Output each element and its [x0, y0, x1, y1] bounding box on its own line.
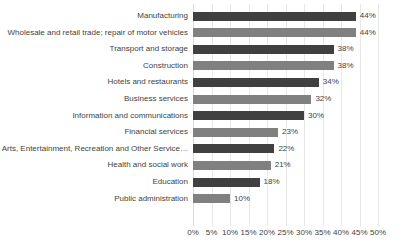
bar [193, 45, 334, 54]
bar-value-label: 44% [356, 25, 376, 42]
bar [193, 95, 311, 104]
bar [193, 144, 274, 153]
bar-track: 22% [193, 141, 418, 158]
bar-value-label: 18% [260, 174, 280, 191]
x-axis-tick-label: 50% [370, 226, 386, 242]
category-label: Information and communications [0, 108, 188, 125]
x-axis-tick-label: 15% [240, 226, 256, 242]
category-label: Hotels and restaurants [0, 74, 188, 91]
bar-track: 10% [193, 191, 418, 208]
bar-chart: Manufacturing44%Wholesale and retail tra… [0, 0, 418, 249]
bar [193, 12, 356, 21]
bar [193, 194, 230, 203]
bar-value-label: 38% [334, 58, 354, 75]
bar-value-label: 32% [311, 91, 331, 108]
bar [193, 61, 334, 70]
category-label: Education [0, 174, 188, 191]
bar-value-label: 22% [274, 141, 294, 158]
category-label: Arts, Entertainment, Recreation and Othe… [0, 141, 188, 158]
bar-track: 34% [193, 74, 418, 91]
category-label: Manufacturing [0, 8, 188, 25]
bar [193, 128, 278, 137]
chart-row: Education18% [0, 174, 418, 191]
x-axis-tick-label: 10% [222, 226, 238, 242]
x-axis-tick-label: 20% [259, 226, 275, 242]
chart-row: Health and social work21% [0, 157, 418, 174]
bar [193, 78, 319, 87]
x-axis-tick-label: 5% [206, 226, 218, 242]
chart-row: Wholesale and retail trade; repair of mo… [0, 25, 418, 42]
bar-value-label: 44% [356, 8, 376, 25]
category-label: Construction [0, 58, 188, 75]
bar-track: 44% [193, 8, 418, 25]
x-axis-tick-label: 0% [187, 226, 199, 242]
bar-track: 21% [193, 157, 418, 174]
x-axis: 0%5%10%15%20%25%30%35%40%45%50% [193, 226, 378, 242]
bar [193, 161, 271, 170]
bar-value-label: 34% [319, 74, 339, 91]
category-label: Wholesale and retail trade; repair of mo… [0, 25, 188, 42]
chart-row: Transport and storage38% [0, 41, 418, 58]
x-axis-tick-label: 30% [296, 226, 312, 242]
chart-row: Financial services23% [0, 124, 418, 141]
bar-track: 44% [193, 25, 418, 42]
x-axis-tick-label: 45% [351, 226, 367, 242]
category-label: Transport and storage [0, 41, 188, 58]
chart-row: Construction38% [0, 58, 418, 75]
x-axis-tick-label: 35% [314, 226, 330, 242]
bar-track: 38% [193, 58, 418, 75]
chart-row: Business services32% [0, 91, 418, 108]
bar [193, 178, 260, 187]
bar [193, 111, 304, 120]
chart-row: Manufacturing44% [0, 8, 418, 25]
chart-row: Arts, Entertainment, Recreation and Othe… [0, 141, 418, 158]
chart-row: Public administration10% [0, 191, 418, 208]
bar-value-label: 30% [304, 108, 324, 125]
bar-value-label: 38% [334, 41, 354, 58]
category-label: Health and social work [0, 157, 188, 174]
category-label: Financial services [0, 124, 188, 141]
category-label: Public administration [0, 191, 188, 208]
bar-track: 38% [193, 41, 418, 58]
bar-track: 32% [193, 91, 418, 108]
x-axis-tick-label: 25% [277, 226, 293, 242]
bar-value-label: 23% [278, 124, 298, 141]
bar [193, 28, 356, 37]
bar-value-label: 21% [271, 157, 291, 174]
bar-track: 18% [193, 174, 418, 191]
bar-track: 30% [193, 108, 418, 125]
category-label: Business services [0, 91, 188, 108]
chart-row: Hotels and restaurants34% [0, 74, 418, 91]
chart-row: Information and communications30% [0, 108, 418, 125]
chart-plot-area: Manufacturing44%Wholesale and retail tra… [0, 0, 418, 226]
bar-track: 23% [193, 124, 418, 141]
bar-value-label: 10% [230, 191, 250, 208]
x-axis-tick-label: 40% [333, 226, 349, 242]
